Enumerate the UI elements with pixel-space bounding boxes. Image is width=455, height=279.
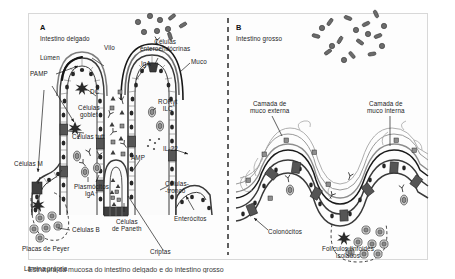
goblet-cell	[246, 162, 423, 222]
rorgt-ilc-cell	[148, 107, 155, 117]
iga-antibody	[108, 128, 117, 137]
panel-b-letter: B	[236, 23, 241, 32]
label-peyers-patches: Placas de Peyer	[22, 245, 69, 252]
label-pamp: PAMP	[30, 70, 48, 77]
lamina-lymphocyte	[400, 195, 407, 205]
label-outer-mucus-layer: Camada de muco externa	[250, 100, 289, 115]
label-il22: IL-22	[163, 145, 178, 152]
label-iga: IgA	[141, 60, 151, 67]
label-m-cells: Células M	[14, 160, 43, 167]
iga-antibody	[106, 110, 114, 119]
lamina-lymphocyte	[286, 185, 293, 195]
label-amp: AMP	[131, 154, 145, 161]
label-plasma-cells: Plasmócitos IgA⁺	[74, 183, 109, 198]
plasma-cell	[93, 163, 100, 173]
panel-b-bacteria-cluster	[312, 10, 387, 63]
label-colonocitos: Colonócitos	[268, 228, 302, 235]
label-inner-mucus-layer: Camada de muco interna	[367, 100, 405, 115]
colon-epithelium	[236, 121, 428, 226]
plasma-cell	[81, 167, 88, 177]
label-b-cells: Células B	[72, 226, 100, 233]
label-criptas: Criptas	[150, 248, 171, 255]
label-isolated-lymphoid-follicles: Folículos linfoides isolados	[322, 245, 374, 260]
label-stem-cells: Células- -tronco	[165, 180, 189, 195]
figure-caption: Estrutura da mucosa do intestino delgado…	[28, 266, 428, 273]
b-cells	[30, 212, 62, 242]
iga-antibody	[119, 96, 126, 104]
label-rorgt-ilc: RORγt ILC	[158, 98, 177, 113]
label-vilo: Vilo	[104, 44, 115, 51]
label-goblet-cells: Células goblet	[78, 104, 100, 119]
label-enteroendocrine-cells: Células enteroendócrinas	[140, 38, 190, 53]
panel-b-title: Intestino grosso	[236, 35, 282, 42]
label-paneth-cells: Células de Paneth	[112, 218, 142, 233]
label-muco: Muco	[191, 58, 207, 65]
rorgt-ilc-cell	[156, 121, 163, 131]
panel-a-title: Intestino delgado	[40, 35, 90, 42]
figure-root: A Intestino delgado Lúmen PAMP Vilo DC C…	[0, 0, 455, 279]
dendritic-cell	[337, 231, 351, 245]
label-enterocitos: Enterócitos	[174, 215, 207, 222]
label-dc: DC	[90, 88, 99, 95]
m-cell	[32, 182, 42, 194]
label-lumen: Lúmen	[40, 54, 60, 61]
panel-a-bacteria-cluster	[135, 13, 187, 40]
plasma-cell	[73, 151, 80, 161]
label-tuft-cells: Células tuft	[72, 133, 105, 140]
panel-a-letter: A	[40, 23, 45, 32]
